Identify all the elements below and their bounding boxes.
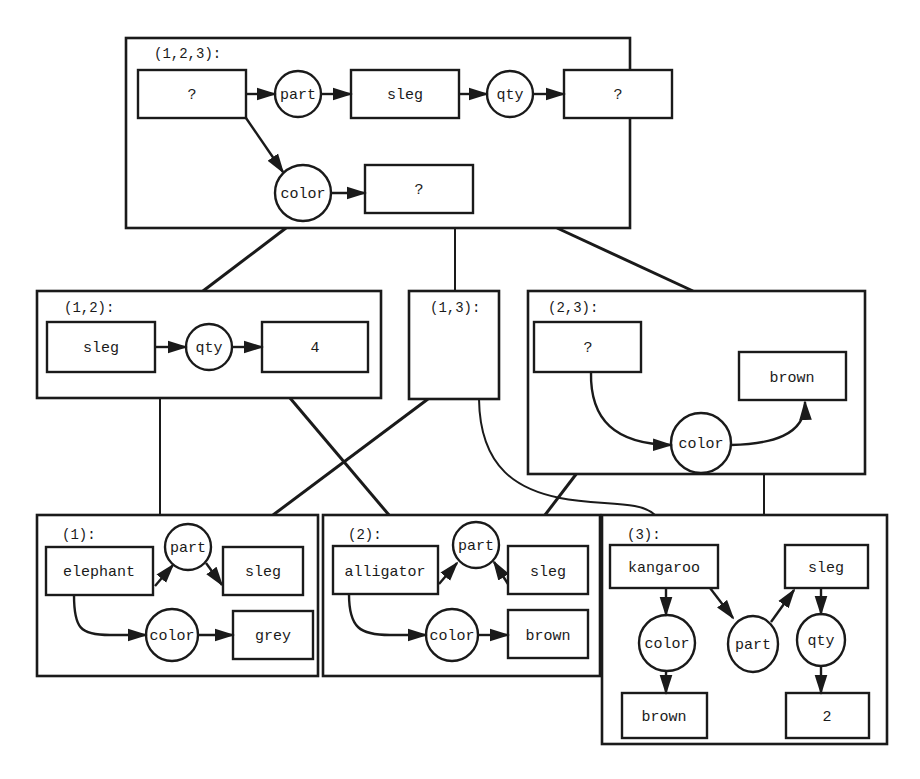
svg-text:part: part (735, 637, 771, 654)
svg-text:color: color (149, 628, 194, 645)
svg-text:sleg: sleg (387, 87, 423, 104)
lattice-diagram: (1,2,3): ? part sleg qty ? color ? (1,2)… (0, 0, 920, 779)
svg-text:color: color (678, 436, 723, 453)
svg-text:?: ? (583, 340, 592, 357)
svg-text:sleg: sleg (530, 564, 566, 581)
svg-text:color: color (429, 628, 474, 645)
svg-text:brown: brown (641, 709, 686, 726)
frame-label: (2): (348, 527, 382, 543)
svg-text:?: ? (613, 87, 622, 104)
frame-1-2-3: (1,2,3): ? part sleg qty ? color ? (126, 38, 672, 228)
svg-text:elephant: elephant (63, 564, 135, 581)
svg-text:kangaroo: kangaroo (628, 560, 700, 577)
frame-label: (2,3): (548, 300, 598, 316)
svg-text:color: color (280, 186, 325, 203)
frame-label: (1,2,3): (154, 46, 221, 62)
svg-text:qty: qty (195, 340, 222, 357)
frame-label: (3): (627, 527, 661, 543)
svg-text:qty: qty (807, 633, 834, 650)
svg-text:?: ? (414, 182, 423, 199)
svg-text:?: ? (187, 87, 196, 104)
edge-23-to-2 (545, 473, 577, 515)
svg-text:brown: brown (525, 628, 570, 645)
frame-1: (1): elephant part sleg color grey (37, 515, 318, 676)
frame-2: (2): alligator part sleg color brown (323, 515, 600, 676)
svg-text:2: 2 (822, 709, 831, 726)
svg-text:sleg: sleg (808, 560, 844, 577)
svg-text:brown: brown (769, 370, 814, 387)
svg-text:alligator: alligator (344, 564, 425, 581)
svg-text:part: part (280, 87, 316, 104)
frame-1-3: (1,3): (409, 291, 499, 399)
svg-text:sleg: sleg (245, 564, 281, 581)
svg-text:qty: qty (496, 87, 523, 104)
frame-label: (1,2): (64, 300, 114, 316)
svg-text:grey: grey (255, 628, 291, 645)
frame-1-2: (1,2): sleg qty 4 (37, 291, 381, 398)
svg-text:4: 4 (310, 340, 319, 357)
edge-123-to-23 (557, 228, 693, 291)
frame-label: (1): (62, 527, 96, 543)
svg-text:part: part (170, 540, 206, 557)
svg-text:color: color (644, 636, 689, 653)
edge-13-to-1 (273, 399, 428, 515)
edge-12-to-2 (290, 398, 389, 515)
frame-3: (3): kangaroo sleg color part qty brown … (602, 515, 887, 744)
svg-text:part: part (458, 538, 494, 555)
edge-123-to-12 (203, 228, 286, 291)
svg-text:sleg: sleg (83, 340, 119, 357)
frame-2-3: (2,3): ? brown color (528, 291, 865, 474)
frame-label: (1,3): (430, 300, 480, 316)
